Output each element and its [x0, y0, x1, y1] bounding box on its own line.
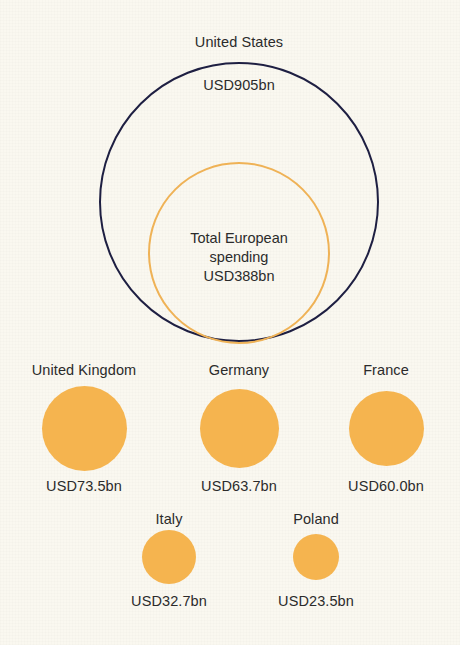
label-germany-name: Germany [159, 362, 319, 380]
label-poland-value: USD23.5bn [236, 593, 396, 611]
bubble-italy [142, 530, 196, 584]
label-europe-line-1: Total European [149, 229, 329, 248]
label-france-name: France [306, 362, 460, 380]
label-united-kingdom-value: USD73.5bn [4, 478, 164, 496]
label-italy-name: Italy [89, 511, 249, 529]
bubble-united-kingdom [42, 386, 127, 471]
bubble-germany [200, 389, 279, 468]
label-total-european-spending: Total European spending USD388bn [149, 229, 329, 286]
bubble-france [349, 391, 424, 466]
label-italy-value: USD32.7bn [89, 593, 249, 611]
bubble-chart-figure: United States USD905bn Total European sp… [0, 0, 460, 645]
label-united-states-value: USD905bn [139, 77, 339, 95]
label-poland-name: Poland [236, 511, 396, 529]
label-germany-value: USD63.7bn [159, 478, 319, 496]
label-france-value: USD60.0bn [306, 478, 460, 496]
label-united-states-name: United States [139, 34, 339, 52]
bubble-poland [293, 534, 339, 580]
label-europe-line-3: USD388bn [149, 267, 329, 286]
label-europe-line-2: spending [149, 248, 329, 267]
label-united-kingdom-name: United Kingdom [4, 362, 164, 380]
